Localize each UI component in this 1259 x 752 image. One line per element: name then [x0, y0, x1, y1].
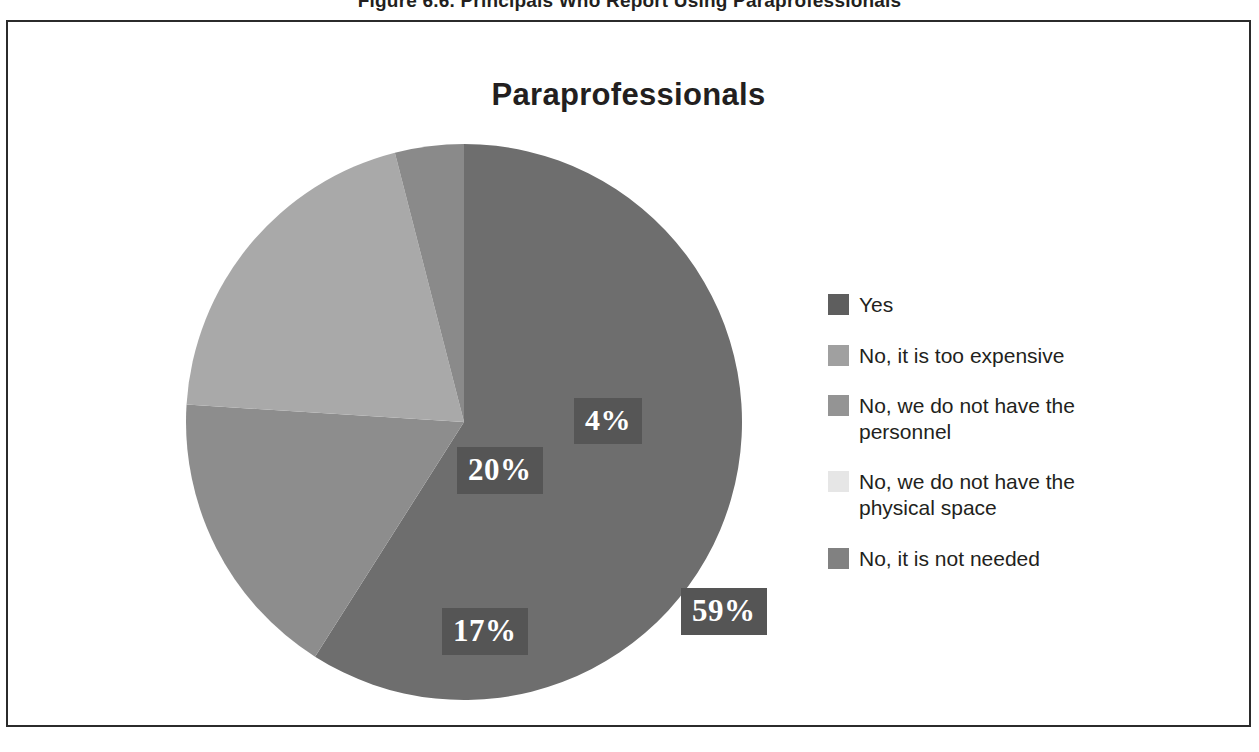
chart-legend: YesNo, it is too expensiveNo, we do not …	[828, 292, 1188, 596]
legend-item-label: No, we do not have the physical space	[859, 469, 1109, 520]
legend-item-label: Yes	[859, 292, 893, 318]
legend-swatch-icon	[828, 395, 849, 416]
legend-item: No, we do not have the physical space	[828, 469, 1188, 520]
data-label-too-expensive: 20%	[457, 447, 543, 494]
legend-swatch-icon	[828, 548, 849, 569]
legend-swatch-icon	[828, 471, 849, 492]
legend-item: Yes	[828, 292, 1188, 318]
figure-caption: Figure 6.6. Principals Who Report Using …	[0, 0, 1259, 12]
data-label-yes: 59%	[681, 588, 767, 635]
legend-item-label: No, it is not needed	[859, 546, 1040, 572]
legend-item: No, we do not have the personnel	[828, 393, 1188, 444]
legend-item-label: No, it is too expensive	[859, 343, 1064, 369]
legend-item: No, it is too expensive	[828, 343, 1188, 369]
legend-item-label: No, we do not have the personnel	[859, 393, 1109, 444]
data-label-not-needed: 17%	[442, 608, 528, 655]
data-label-physical-space: 4%	[574, 398, 642, 444]
chart-frame: Paraprofessionals 59% 20% 17% 4% YesNo, …	[6, 20, 1251, 727]
legend-swatch-icon	[828, 345, 849, 366]
chart-title: Paraprofessionals	[8, 77, 1249, 113]
legend-swatch-icon	[828, 294, 849, 315]
pie-chart: 59% 20% 17% 4%	[184, 132, 744, 712]
legend-item: No, it is not needed	[828, 546, 1188, 572]
